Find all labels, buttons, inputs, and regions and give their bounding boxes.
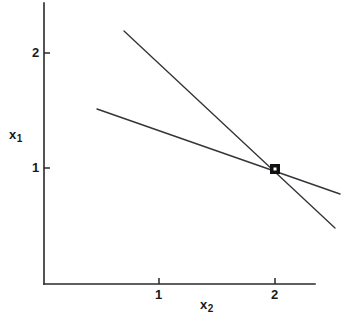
y-axis-title: x1 xyxy=(9,128,22,144)
plot-canvas xyxy=(0,0,353,321)
shallow-constraint-line xyxy=(97,109,340,194)
x-tick-label-1: 1 xyxy=(155,288,162,301)
y-tick-label-1: 1 xyxy=(32,161,39,174)
x-axis-title-subscript: 2 xyxy=(207,303,213,314)
x-axis-title: x2 xyxy=(200,298,213,314)
y-tick-label-2: 2 xyxy=(32,46,39,59)
line-intersection-figure: 2 1 1 2 x1 x2 xyxy=(0,0,353,321)
y-axis-title-subscript: 1 xyxy=(16,133,22,144)
x-tick-label-2: 2 xyxy=(271,288,278,301)
intersection-marker-center xyxy=(274,168,277,171)
